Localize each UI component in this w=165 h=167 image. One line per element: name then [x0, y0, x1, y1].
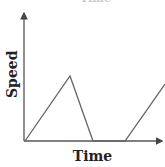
- speed-line: [25, 76, 165, 141]
- speed-time-graph: [0, 0, 165, 167]
- x-axis-label: Time: [0, 148, 165, 164]
- y-axis-label: Speed: [4, 58, 20, 98]
